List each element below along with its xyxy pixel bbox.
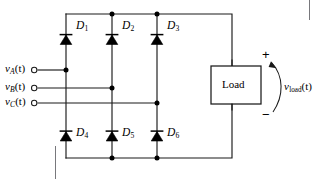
polarity-plus: +	[262, 48, 270, 61]
label-phase-a: vA(t)	[5, 63, 25, 76]
label-diode-d6: D6	[167, 127, 179, 140]
junction-dot-bottom-c	[155, 156, 160, 161]
diode-d5-triangle	[106, 132, 118, 142]
label-diode-d3: D3	[167, 20, 179, 33]
label-diode-d4: D4	[76, 127, 88, 140]
junction-dot-phase-a	[64, 68, 69, 73]
label-load: Load	[222, 79, 245, 90]
label-vload: vload(t)	[284, 81, 312, 94]
label-diode-d2: D2	[122, 20, 134, 33]
diode-d1-triangle	[60, 35, 72, 45]
circuit-diagram: vA(t) vB(t) vC(t) D1 D2 D3 D4 D5 D6 Load…	[0, 0, 317, 179]
terminal-phase-b[interactable]	[32, 85, 37, 90]
terminal-phase-c[interactable]	[32, 100, 37, 105]
label-phase-c: vC(t)	[5, 96, 26, 109]
junction-dot-phase-b	[110, 86, 115, 91]
negative-dc-rail	[66, 104, 232, 158]
junction-dot-bottom-b	[110, 156, 115, 161]
terminal-phase-a[interactable]	[32, 67, 37, 72]
diode-d4-triangle	[60, 132, 72, 142]
vload-arrow-head	[269, 61, 277, 68]
diode-d6-triangle	[151, 132, 163, 142]
label-phase-b: vB(t)	[5, 81, 25, 94]
junction-dot-top-b	[110, 12, 115, 17]
positive-dc-rail	[66, 14, 232, 66]
junction-dot-top-c	[155, 12, 160, 17]
vload-arc	[272, 63, 282, 113]
label-diode-d5: D5	[122, 127, 134, 140]
label-diode-d1: D1	[76, 20, 88, 33]
diode-d2-triangle	[106, 35, 118, 45]
junction-dot-phase-c	[155, 101, 160, 106]
circuit-schematic-canvas	[0, 0, 317, 179]
polarity-minus: −	[262, 108, 270, 121]
diode-d3-triangle	[151, 35, 163, 45]
